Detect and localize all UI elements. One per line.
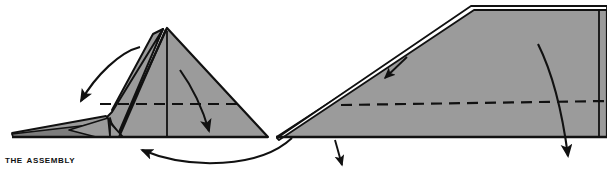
figure-caption: The Assembly xyxy=(5,150,75,168)
diagram-page: The Assembly xyxy=(0,0,607,173)
arrow-result-pointer xyxy=(142,138,292,163)
paper-plane-folding-diagram xyxy=(0,0,607,173)
right-figure xyxy=(276,6,607,140)
left-figure xyxy=(12,28,268,137)
arrow-nose-pointer xyxy=(335,140,342,165)
